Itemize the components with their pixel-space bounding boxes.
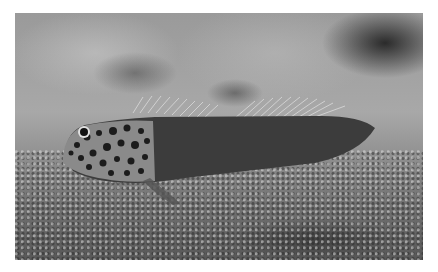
photograph — [15, 13, 423, 260]
dorsal-fin — [133, 96, 345, 118]
blenny-fish — [15, 13, 423, 260]
pectoral-fin — [143, 178, 180, 205]
